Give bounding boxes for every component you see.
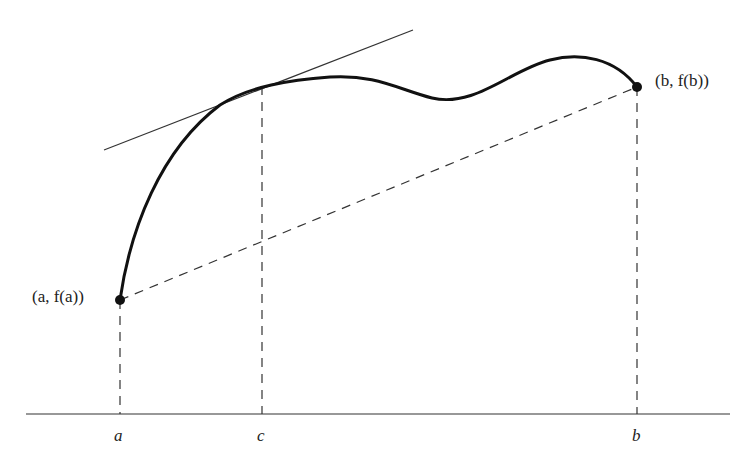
point-a-dot <box>115 295 125 305</box>
tick-label-b: b <box>632 426 641 446</box>
tangent-line <box>104 30 413 150</box>
point-b-dot <box>632 82 642 92</box>
label-point-a: (a, f(a)) <box>32 287 84 307</box>
tick-label-c: c <box>257 426 265 446</box>
label-point-b: (b, f(b)) <box>655 71 709 91</box>
tick-label-a: a <box>114 426 123 446</box>
function-curve <box>120 57 637 300</box>
secant-line <box>120 87 637 300</box>
mvt-diagram <box>0 0 752 469</box>
